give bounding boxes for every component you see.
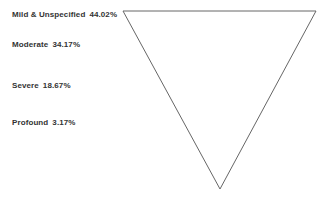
funnel-triangle [0,0,323,200]
